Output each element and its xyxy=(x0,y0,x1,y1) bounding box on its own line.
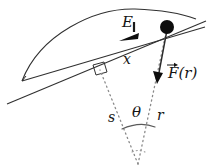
label-radius-r: r xyxy=(157,108,164,122)
particle-point-mass xyxy=(160,20,174,34)
right-angle-marker-icon xyxy=(93,62,107,75)
label-distance-x: x xyxy=(123,52,131,66)
physics-diagram: E x s θ r F (r) xyxy=(0,0,209,167)
vector-arrow-icon xyxy=(167,61,178,67)
label-angle-theta: θ xyxy=(132,105,141,120)
dotted-radius-r xyxy=(138,28,167,164)
force-vector-shaft xyxy=(158,30,167,78)
label-arc-length-s: s xyxy=(108,110,115,124)
diagram-canvas xyxy=(0,0,209,167)
force-vector-arrowhead-icon xyxy=(153,71,163,84)
label-field-E: E xyxy=(122,15,133,30)
dotted-angle-arc xyxy=(122,124,155,129)
field-direction-arrowhead-icon xyxy=(119,33,139,41)
label-force-F-of-r: F (r) xyxy=(168,66,197,81)
dotted-apex-arc xyxy=(132,151,145,153)
force-symbol-argument: (r) xyxy=(178,64,197,82)
force-symbol-with-vector-arrow: F xyxy=(168,66,178,81)
